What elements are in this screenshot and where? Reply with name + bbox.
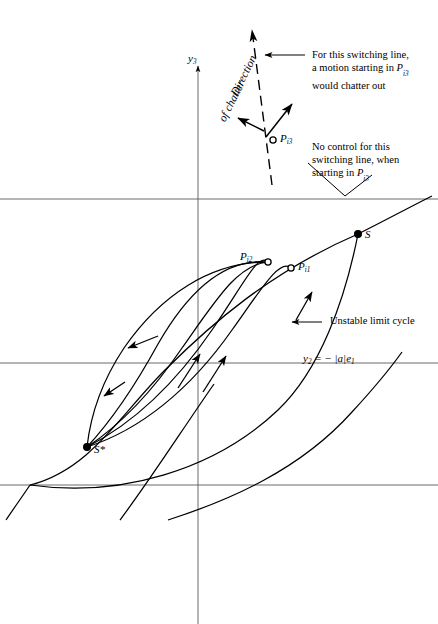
y-axis-label: y3	[188, 52, 196, 64]
annotation-no-control-line1: No control for this	[312, 140, 434, 153]
point-label-S-sym: S	[365, 228, 371, 240]
marker-S-star	[84, 444, 91, 451]
point-label-Pi3-sub: i3	[287, 138, 293, 146]
x-axis-label: y2 = − |a|e1	[303, 352, 355, 364]
traj-arrow-left-inbound	[128, 336, 158, 348]
point-label-Pi1-sym: P	[298, 260, 305, 272]
leader-lines	[265, 55, 372, 322]
annotation-chatter-out: For this switching line, a motion starti…	[312, 48, 438, 92]
x-axis-label-rest-sub: 1	[351, 358, 355, 366]
marker-Pi1	[288, 265, 294, 271]
annotation-no-control-line3: starting in Pi3	[312, 166, 434, 184]
point-label-Pi3: Pi3	[280, 132, 292, 144]
traj-arrow-outer-up	[296, 292, 312, 320]
annotation-chatter-out-line3: would chatter out	[312, 79, 438, 92]
annotation-chatter-out-line2-sub: i3	[403, 70, 409, 78]
annotation-chatter-out-line2: a motion starting in Pi3	[312, 61, 438, 79]
trajectory-lower-right	[168, 352, 402, 520]
traj-arrow-left-lower	[104, 382, 125, 396]
annotation-no-control-line2: switching line, when	[312, 153, 434, 166]
annotation-unstable-limit-cycle: Unstable limit cycle	[330, 315, 415, 328]
x-axis-label-rest: = − |a|e	[311, 352, 351, 364]
trajectory-out-lower-left	[6, 485, 30, 520]
annotation-chatter-out-line2-pre: a motion starting in	[312, 62, 397, 73]
annotation-no-control-line3-sub: i3	[363, 175, 369, 183]
chatter-switching-line-group	[252, 30, 272, 185]
trajectory-inner-3	[87, 262, 268, 447]
x-axis-label-sub: 2	[308, 358, 312, 366]
trajectory-direction-arrows	[104, 292, 312, 396]
point-label-S-star: S*	[94, 443, 105, 455]
marker-S	[355, 231, 362, 238]
marker-Pi2	[265, 259, 271, 265]
marker-Pi3	[270, 137, 276, 143]
point-label-Pi1-sub: i1	[305, 266, 311, 274]
diagram-canvas	[0, 0, 438, 624]
point-label-S: S	[365, 228, 371, 240]
phase-plane-figure: y3 y2 = − |a|e1 Direction of chatter For…	[0, 0, 438, 624]
chatter-switching-line	[252, 30, 272, 185]
point-label-Pi2-sym: P	[240, 250, 247, 262]
point-label-Pi2-sub: i2	[247, 256, 253, 264]
y-axis-label-sub: 3	[193, 58, 197, 66]
point-label-Pi2: Pi2	[240, 250, 252, 262]
point-label-S-star-sym: S*	[94, 443, 105, 455]
traj-arrow-inner-up-2	[203, 356, 226, 392]
annotation-no-control: No control for this switching line, when…	[312, 140, 434, 184]
annotation-chatter-out-line1: For this switching line,	[312, 48, 438, 61]
pi3-vector-down-left	[238, 118, 264, 131]
trajectories	[6, 196, 432, 520]
point-label-Pi1: Pi1	[298, 260, 310, 272]
annotation-no-control-line3-pre: starting in	[312, 167, 357, 178]
point-label-Pi3-sym: P	[280, 132, 287, 144]
